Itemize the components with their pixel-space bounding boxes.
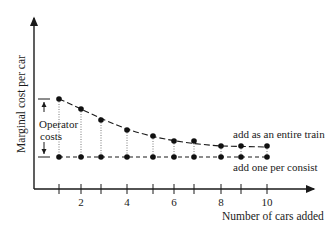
x-axis-title: Number of cars added [222,210,324,222]
operator-costs-label-line1: Operator [39,118,78,130]
x-tick-label: 8 [218,196,224,208]
x-tick-label: 4 [124,196,130,208]
x-tick-labels: 2 4 6 8 10 [78,196,273,208]
operator-costs-label-line2: costs [40,130,62,142]
series-entire-train-label: add as an entire train [233,128,325,140]
marginal-cost-chart: 2 4 6 8 10 Number of cars added Marginal… [0,0,336,231]
x-tick-label: 2 [78,196,84,208]
series-per-consist-label: add one per consist [233,161,318,173]
y-axis-title: Marginal cost per car [15,55,28,153]
x-tick-label: 10 [262,196,274,208]
x-tick-label: 6 [171,196,177,208]
series-entire-train-points [56,96,270,149]
